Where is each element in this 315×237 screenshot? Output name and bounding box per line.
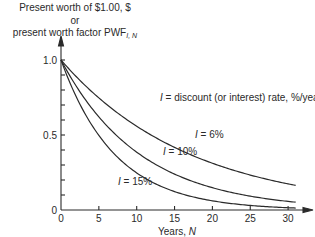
x-tick-label: 15 xyxy=(169,213,181,224)
x-tick-label: 10 xyxy=(131,213,143,224)
curve-15-percent xyxy=(61,60,296,208)
axes xyxy=(59,36,314,213)
series-label: I = 15% xyxy=(118,176,152,187)
x-tick-label: 25 xyxy=(245,213,257,224)
series-label: I = 6% xyxy=(195,129,224,140)
x-tick-label: 5 xyxy=(96,213,102,224)
y-tick-label: 0.5 xyxy=(43,130,57,141)
x-tick-label: 0 xyxy=(58,213,64,224)
x-axis-arrow-icon xyxy=(303,208,313,213)
y-tick-label: 0 xyxy=(51,205,57,216)
x-tick-label: 20 xyxy=(207,213,219,224)
x-tick-label: 30 xyxy=(283,213,295,224)
series-label: I = 10% xyxy=(163,146,197,157)
x-axis-label: Years, N xyxy=(158,226,197,237)
curves xyxy=(61,60,296,208)
curve-6-percent xyxy=(61,60,296,185)
y-tick-label: 1.0 xyxy=(43,55,57,66)
y-axis-arrow-icon xyxy=(59,36,64,46)
rate-annotation: I = discount (or interest) rate, %/year xyxy=(160,92,315,103)
chart-plot: 05101520253000.51.0I = 6%I = 10%I = 15%I… xyxy=(0,0,315,237)
